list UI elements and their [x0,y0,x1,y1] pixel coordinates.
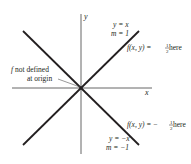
value-label-neg-half-prefix: f(x, y) = [127,120,153,129]
diagram-figure: y x y = x m = 1 f(x, y) = 1 2 here f not… [0,0,191,164]
annotation-line1: f not defined [11,65,49,74]
y-axis-label: y [83,12,88,21]
annotation-rest: not defined [13,65,49,74]
x-axis-label: x [144,88,149,97]
slope-label-m-neg-1: m = −1 [106,143,129,152]
value-label-half: f(x, y) = [127,43,151,52]
annotation-line2: at origin [27,74,52,83]
value-label-half-suffix: here [169,43,183,52]
equation-label-y-eq-neg-x: y = −x [108,134,130,143]
value-label-half-prefix: f(x, y) = [127,43,151,52]
slope-label-m-1: m = 1 [111,29,129,38]
equation-label-y-eq-x: y = x [112,20,129,29]
value-label-neg-half-suffix: here [173,120,187,129]
value-label-neg-half-sign: − [153,120,157,129]
value-label-neg-half: f(x, y) = − [127,120,158,129]
